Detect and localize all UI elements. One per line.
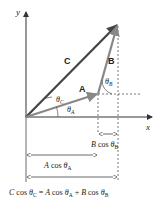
vector-a-label: A: [79, 84, 86, 94]
theta-b-label: θB: [105, 77, 113, 87]
equation: C cos θC = A cos θA + B cos θB: [9, 188, 109, 198]
vector-c-label: C: [64, 56, 71, 66]
theta-a-arc: [56, 107, 58, 117]
vector-addition-diagram: y x C A B θC θA θB B cos θB A cos θA C c…: [0, 0, 162, 202]
diagram-canvas: y x C A B θC θA θB B cos θB A cos θA C c…: [0, 0, 162, 202]
theta-a-label: θA: [67, 105, 75, 115]
b-cos-label: B cos θB: [91, 140, 119, 150]
vector-b-label: B: [108, 56, 115, 66]
x-axis-label: x: [145, 122, 150, 132]
a-cos-label: A cos θA: [43, 161, 72, 171]
y-axis-label: y: [15, 7, 20, 17]
theta-c-label: θC: [56, 95, 64, 105]
